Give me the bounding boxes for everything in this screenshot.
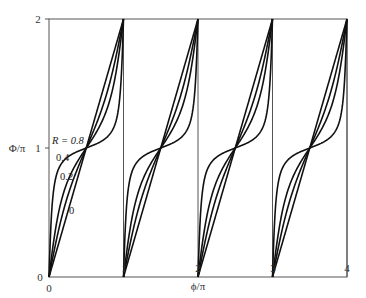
x-axis: 0 1 2 3 4 ϕ/π	[46, 262, 350, 294]
label-r0: 0	[69, 205, 74, 216]
chart: 2 1 0 Φ/π 0 1 2 3 4 ϕ/π R = 0.8 0.4 0.2 …	[0, 0, 366, 298]
y-tick-1: 1	[35, 142, 41, 154]
y-tick-2: 2	[35, 13, 41, 25]
plot-area	[49, 19, 347, 277]
label-r04: 0.4	[56, 152, 70, 163]
x-axis-label: ϕ/π	[191, 280, 206, 292]
x-tick-1: 1	[121, 262, 127, 274]
x-tick-3: 3	[270, 262, 276, 274]
x-tick-0: 0	[46, 282, 52, 294]
y-tick-0: 0	[37, 271, 43, 283]
x-tick-4: 4	[344, 262, 350, 274]
y-axis-label: Φ/π	[9, 142, 26, 154]
label-r02: 0.2	[60, 171, 73, 182]
label-r08: R = 0.8	[51, 135, 85, 146]
x-tick-2: 2	[195, 262, 201, 274]
y-axis: 2 1 0 Φ/π	[9, 13, 49, 283]
